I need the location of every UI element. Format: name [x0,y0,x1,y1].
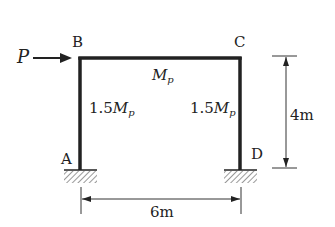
height-label: 4m [290,106,314,124]
node-label-a: A [60,150,72,168]
span-label: 6m [150,203,174,221]
left-column-moment-label: 1.5Mp [89,99,135,118]
load-arrow-icon [33,53,72,63]
node-label-c: C [234,33,245,51]
support-a-fixed [64,170,97,183]
svg-text:1.5Mp: 1.5Mp [190,99,236,118]
node-label-b: B [72,33,83,51]
dim-arrow-down-icon [283,158,289,167]
node-label-d: D [251,145,263,163]
right-column-moment-label: 1.5Mp [190,99,236,118]
dim-arrow-left-icon [82,196,91,202]
beam-moment-label: Mp [151,66,174,85]
support-d-fixed [224,170,257,183]
load-label: P [16,46,30,67]
svg-text:1.5Mp: 1.5Mp [89,99,135,118]
dim-arrow-right-icon [231,196,240,202]
svg-text:Mp: Mp [151,66,174,85]
portal-frame-diagram: P B C A D Mp 1.5Mp 1.5Mp 4m 6m [0,0,335,227]
dim-arrow-up-icon [283,57,289,66]
